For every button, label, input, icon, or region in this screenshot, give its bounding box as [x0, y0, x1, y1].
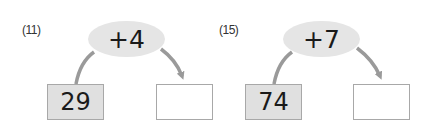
problem-15: (15) +7 74 [0, 0, 218, 140]
operation-bubble: +7 [283, 21, 360, 57]
input-arc [274, 52, 292, 84]
problem-number: (15) [219, 23, 238, 37]
start-value-box: 74 [245, 84, 302, 120]
answer-box[interactable] [353, 84, 410, 120]
output-arrow [357, 48, 380, 76]
